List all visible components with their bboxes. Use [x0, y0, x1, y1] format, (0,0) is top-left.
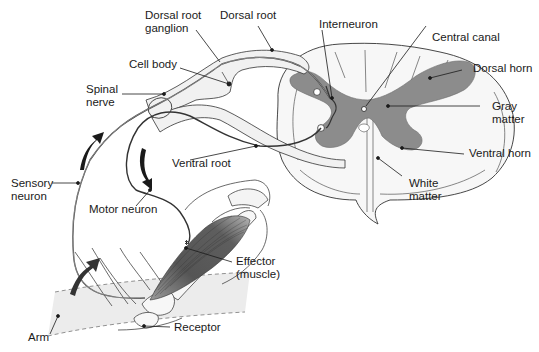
- label-white-matter: White matter: [409, 177, 442, 203]
- label-ventral-root: Ventral root: [172, 157, 231, 170]
- label-dorsal-root-ganglion: Dorsal root ganglion: [145, 9, 201, 35]
- motor-arrow-icon: [140, 148, 152, 190]
- label-sensory-neuron: Sensory neuron: [11, 177, 53, 203]
- label-interneuron: Interneuron: [319, 18, 378, 31]
- label-motor-neuron: Motor neuron: [89, 203, 157, 216]
- sensory-arrow-icon: [80, 132, 104, 170]
- label-line: matter: [409, 190, 442, 203]
- label-central-canal: Central canal: [432, 31, 500, 44]
- label-line: Sensory: [11, 177, 53, 190]
- label-spinal-nerve: Spinal nerve: [86, 83, 118, 109]
- label-line: Gray: [492, 100, 525, 113]
- label-line: Dorsal root: [145, 9, 201, 22]
- label-line: Effector: [236, 255, 280, 268]
- diagram-canvas: [0, 0, 539, 352]
- label-line: matter: [492, 113, 525, 126]
- label-arm: Arm: [28, 331, 49, 344]
- label-receptor: Receptor: [174, 321, 221, 334]
- label-effector: Effector (muscle): [236, 255, 280, 281]
- label-line: nerve: [86, 96, 118, 109]
- label-line: neuron: [11, 190, 53, 203]
- reflex-arc-diagram: Dorsal root ganglion Dorsal root Interne…: [0, 0, 539, 352]
- label-line: (muscle): [236, 268, 280, 281]
- label-ventral-horn: Ventral horn: [469, 147, 531, 160]
- label-gray-matter: Gray matter: [492, 100, 525, 126]
- label-dorsal-horn: Dorsal horn: [473, 62, 532, 75]
- label-cell-body: Cell body: [129, 58, 177, 71]
- label-line: White: [409, 177, 442, 190]
- label-line: ganglion: [145, 22, 201, 35]
- label-dorsal-root: Dorsal root: [220, 9, 276, 22]
- label-line: Spinal: [86, 83, 118, 96]
